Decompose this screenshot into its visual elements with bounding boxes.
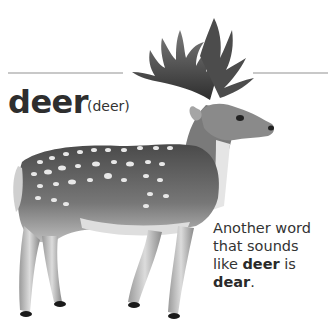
hooves [20,301,180,319]
note-homophone-word: dear [213,274,250,290]
note-text: is [280,256,296,272]
note-line-2: that sounds [213,237,328,255]
note-line-3: like deer is [213,255,328,273]
note-bold-word: deer [242,256,279,272]
pronunciation: (deer) [87,98,130,114]
note-text: . [250,274,255,290]
note-text: like [213,256,242,272]
dictionary-page: deer (deer) Another word that sounds lik… [0,0,328,327]
note-line-1: Another word [213,219,328,237]
homophone-note: Another word that sounds like deer is de… [213,219,328,291]
headword: deer [8,86,88,118]
note-line-4: dear. [213,273,328,291]
antlers [132,18,254,100]
legs [19,226,194,314]
